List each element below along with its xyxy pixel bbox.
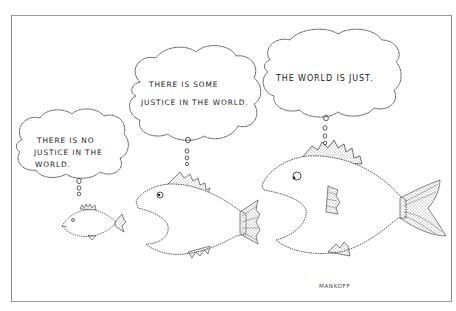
medium-fish	[136, 172, 260, 258]
thought-bubbles-small-fish	[77, 178, 81, 196]
thought-text-small-line-2: JUSTICE IN THE	[34, 149, 103, 156]
thought-text-large-line-1: THE WORLD IS JUST.	[276, 75, 373, 83]
thought-text-medium-line-1: THERE IS SOME	[149, 81, 218, 88]
thought-text-small-line-3: WORLD.	[35, 161, 71, 168]
thought-text-small-line-1: THERE IS NO	[37, 137, 94, 144]
thought-cloud-medium-fish	[130, 46, 261, 141]
artist-signature: MANKOFF	[319, 283, 350, 289]
small-fish	[62, 204, 126, 240]
large-fish	[262, 140, 446, 256]
thought-bubbles-medium-fish	[185, 137, 190, 166]
thought-bubbles-large-fish	[323, 115, 328, 145]
thought-text-medium-line-2: JUSTICE IN THE WORLD.	[141, 99, 249, 106]
